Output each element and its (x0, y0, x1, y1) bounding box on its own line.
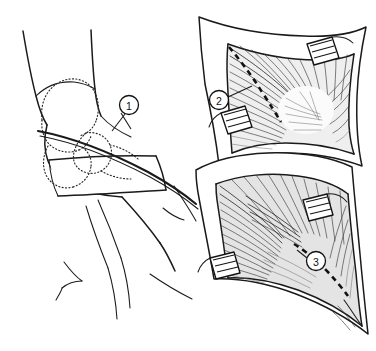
torso-outline (23, 30, 101, 125)
callout-3[interactable]: 3 (307, 252, 326, 271)
tendinous-insertion (278, 86, 334, 134)
panel-3-deep-exposure (196, 153, 368, 334)
callout-1[interactable]: 1 (120, 96, 139, 115)
surgical-figure: 1 2 3 (0, 0, 376, 351)
leg-outline (56, 186, 196, 319)
panel-1-patient-position (23, 30, 198, 319)
callout-2[interactable]: 2 (210, 91, 229, 110)
callout-1-label: 1 (126, 100, 132, 112)
callout-3-label: 3 (313, 256, 319, 268)
callout-2-label: 2 (216, 95, 222, 107)
retractor-deep-left (198, 252, 240, 279)
figure-canvas: 1 2 3 (0, 0, 376, 351)
pelvis-bone-dotted-outline (42, 79, 99, 152)
